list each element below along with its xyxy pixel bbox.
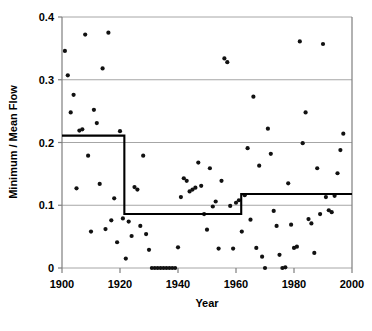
data-point — [106, 31, 110, 35]
data-point — [254, 246, 258, 250]
data-point — [306, 217, 310, 221]
y-tick-label: 0.3 — [39, 74, 54, 86]
data-point — [211, 204, 215, 208]
data-point — [286, 181, 290, 185]
data-point — [295, 245, 299, 249]
data-point — [115, 240, 119, 244]
y-tick-label: 0.2 — [39, 137, 54, 149]
data-point — [109, 218, 113, 222]
data-point — [205, 228, 209, 232]
data-point — [199, 184, 203, 188]
step-function-line — [62, 136, 352, 214]
data-point — [80, 127, 84, 131]
data-point — [330, 210, 334, 214]
data-point — [246, 146, 250, 150]
data-point — [92, 108, 96, 112]
data-point — [318, 212, 322, 216]
data-points — [63, 31, 346, 271]
data-point — [312, 251, 316, 255]
data-point — [275, 224, 279, 228]
data-point — [225, 60, 229, 64]
step-change-line — [62, 136, 352, 214]
data-point — [248, 218, 252, 222]
data-point — [341, 132, 345, 136]
y-tick-label: 0.1 — [39, 199, 54, 211]
data-point — [222, 56, 226, 60]
data-point — [208, 166, 212, 170]
data-point — [217, 246, 221, 250]
data-point — [231, 246, 235, 250]
x-tick-label: 1940 — [166, 278, 190, 290]
y-tick-label: 0 — [48, 262, 54, 274]
data-point — [101, 66, 105, 70]
data-point — [298, 39, 302, 43]
data-point — [219, 179, 223, 183]
data-point — [176, 245, 180, 249]
data-point — [301, 141, 305, 145]
data-point — [277, 253, 281, 257]
data-point — [66, 73, 70, 77]
data-point — [260, 255, 264, 259]
data-point — [130, 234, 134, 238]
data-point — [185, 179, 189, 183]
data-point — [240, 230, 244, 234]
data-point — [127, 219, 131, 223]
data-point — [98, 182, 102, 186]
y-axis-title: Minimum / Mean Flow — [7, 85, 19, 199]
x-tick-label: 1960 — [224, 278, 248, 290]
scatter-plot: 00.10.20.30.4 190019201940196019802000 M… — [0, 0, 372, 331]
x-tick-label: 2000 — [340, 278, 364, 290]
data-point — [324, 195, 328, 199]
data-point — [228, 204, 232, 208]
data-point — [147, 248, 151, 252]
data-point — [289, 223, 293, 227]
data-point — [338, 148, 342, 152]
data-point — [179, 195, 183, 199]
data-point — [266, 127, 270, 131]
data-point — [193, 186, 197, 190]
data-point — [72, 93, 76, 97]
data-point — [83, 32, 87, 36]
data-point — [118, 129, 122, 133]
data-point — [138, 224, 142, 228]
data-point — [335, 171, 339, 175]
data-point — [321, 42, 325, 46]
plot-frame — [58, 17, 352, 273]
data-point — [121, 216, 125, 220]
data-point — [263, 266, 267, 270]
x-axis-tick-labels: 190019201940196019802000 — [50, 278, 364, 290]
data-point — [141, 154, 145, 158]
data-point — [69, 110, 73, 114]
data-point — [309, 221, 313, 225]
data-point — [103, 227, 107, 231]
data-point — [112, 196, 116, 200]
data-point — [86, 154, 90, 158]
x-tick-label: 1980 — [282, 278, 306, 290]
data-point — [95, 121, 99, 125]
data-point — [251, 95, 255, 99]
data-point — [214, 199, 218, 203]
data-point — [63, 49, 67, 53]
data-point — [272, 209, 276, 213]
data-point — [144, 232, 148, 236]
y-tick-label: 0.4 — [39, 11, 55, 23]
x-tick-label: 1920 — [108, 278, 132, 290]
x-tick-label: 1900 — [50, 278, 74, 290]
data-point — [304, 110, 308, 114]
data-point — [89, 230, 93, 234]
data-point — [196, 160, 200, 164]
data-point — [257, 164, 261, 168]
data-point — [315, 166, 319, 170]
y-axis-tick-labels: 00.10.20.30.4 — [39, 11, 55, 274]
chart-container: 00.10.20.30.4 190019201940196019802000 M… — [0, 0, 372, 331]
data-point — [283, 265, 287, 269]
data-point — [173, 266, 177, 270]
data-point — [135, 187, 139, 191]
data-point — [74, 186, 78, 190]
x-axis-title: Year — [195, 297, 219, 309]
data-point — [269, 152, 273, 156]
data-point — [124, 256, 128, 260]
